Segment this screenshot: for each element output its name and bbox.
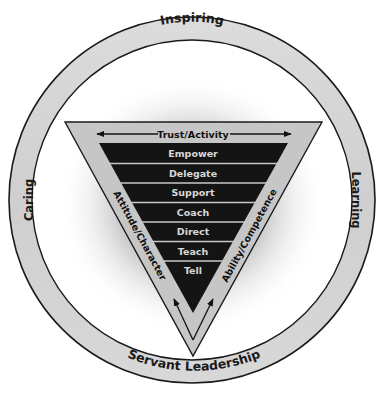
servant-leadership-diagram: Inspiring Caring Learning Servant Leader…	[0, 0, 385, 397]
row-label-empower: Empower	[168, 148, 218, 159]
ring-label-right: Learning	[349, 171, 363, 228]
row-label-direct: Direct	[177, 226, 210, 237]
row-label-tell: Tell	[184, 265, 202, 276]
ring-label-left: Caring	[22, 179, 36, 221]
trust-activity-label: Trust/Activity	[157, 129, 229, 140]
row-label-coach: Coach	[177, 207, 210, 218]
row-label-delegate: Delegate	[169, 168, 217, 179]
row-label-support: Support	[172, 187, 215, 198]
row-label-teach: Teach	[178, 246, 209, 257]
